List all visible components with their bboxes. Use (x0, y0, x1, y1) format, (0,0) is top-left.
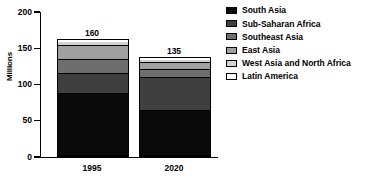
x-axis-line (40, 157, 218, 158)
legend-item-label: Sub-Saharan Africa (242, 20, 321, 29)
bar-segment (58, 74, 128, 94)
legend-item-label: Southeast Asia (242, 33, 303, 42)
legend-item-label: South Asia (242, 6, 286, 15)
legend-item[interactable]: West Asia and North Africa (226, 57, 368, 70)
y-tick-label: 100 (0, 80, 32, 89)
legend-swatch-icon (226, 73, 237, 80)
bar-segment (140, 78, 210, 111)
y-tick-mark (34, 48, 40, 49)
stacked-bar (57, 39, 129, 157)
legend-item[interactable]: Latin America (226, 70, 368, 83)
bar-segment (140, 70, 210, 77)
y-tick-label: 150 (0, 44, 32, 53)
y-tick-mark (34, 120, 40, 121)
legend-item-label: West Asia and North Africa (242, 59, 351, 68)
chart-legend: South AsiaSub-Saharan AfricaSoutheast As… (226, 4, 368, 83)
y-axis-title: Millions (5, 32, 14, 102)
legend-swatch-icon (226, 47, 237, 54)
y-tick-mark (34, 156, 40, 157)
legend-swatch-icon (226, 7, 237, 14)
y-tick-label: 200 (0, 8, 32, 17)
bar-segment (58, 94, 128, 156)
bar-segment (58, 60, 128, 75)
y-tick-mark (34, 11, 40, 12)
stacked-bar-chart: Millions 050100150200 16019951352020 Sou… (0, 0, 369, 183)
stacked-bar (139, 57, 211, 157)
bar-segment (140, 111, 210, 156)
bar-segment (140, 63, 210, 70)
legend-item-label: Latin America (242, 72, 298, 81)
legend-swatch-icon (226, 33, 237, 40)
legend-item[interactable]: Sub-Saharan Africa (226, 17, 368, 30)
x-axis-category-label: 1995 (62, 163, 122, 173)
bar-total-label: 135 (144, 46, 204, 56)
y-axis-line (40, 12, 41, 158)
bar-total-label: 160 (62, 28, 122, 38)
legend-item[interactable]: Southeast Asia (226, 30, 368, 43)
y-tick-label: 0 (0, 153, 32, 162)
legend-item-label: East Asia (242, 46, 280, 55)
legend-swatch-icon (226, 60, 237, 67)
legend-swatch-icon (226, 20, 237, 27)
legend-item[interactable]: East Asia (226, 44, 368, 57)
x-axis-category-label: 2020 (144, 163, 204, 173)
y-tick-label: 50 (0, 116, 32, 125)
legend-item[interactable]: South Asia (226, 4, 368, 17)
y-tick-mark (34, 84, 40, 85)
bar-segment (58, 46, 128, 60)
